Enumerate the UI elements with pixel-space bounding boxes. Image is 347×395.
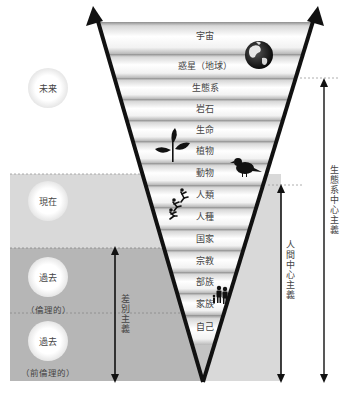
band-life: 生命 bbox=[196, 126, 214, 135]
band-family: 家族 bbox=[196, 300, 214, 309]
discrimination-label: 差別主義 bbox=[120, 294, 129, 334]
band-ecosystem: 生態系 bbox=[192, 84, 219, 93]
era-past-ethical-sub: （倫理的） bbox=[26, 303, 71, 315]
era-present-label: 現在 bbox=[39, 195, 57, 208]
band-nation: 国家 bbox=[196, 235, 214, 244]
band-rock: 岩石 bbox=[196, 105, 214, 114]
band-humankind: 人類 bbox=[196, 191, 214, 200]
band-race: 人種 bbox=[196, 213, 214, 222]
era-past-ethical-label: 過去 bbox=[39, 271, 57, 284]
era-past-preethical-sub: （前倫理的） bbox=[21, 366, 75, 378]
band-religion: 宗教 bbox=[196, 257, 214, 266]
band-plants: 植物 bbox=[196, 147, 214, 156]
ecocentric-range-arrow bbox=[320, 78, 328, 383]
globe-icon bbox=[245, 41, 273, 69]
band-planet: 惑星（地球） bbox=[178, 62, 232, 71]
era-future-label: 未来 bbox=[39, 82, 57, 95]
era-past-ethical-circle: 過去 bbox=[28, 257, 68, 297]
era-future-circle: 未来 bbox=[28, 68, 68, 108]
era-past-preethical-circle: 過去 bbox=[28, 321, 68, 361]
anthropocentrism-label: 人間中心主義 bbox=[285, 240, 294, 300]
band-tribe: 部族 bbox=[196, 278, 214, 287]
band-animals: 動物 bbox=[196, 169, 214, 178]
band-cosmos: 宇宙 bbox=[196, 32, 214, 41]
era-present-circle: 現在 bbox=[28, 181, 68, 221]
ecocentrism-label: 生態系中心主義 bbox=[329, 165, 338, 235]
band-self: 自己 bbox=[196, 323, 214, 332]
era-past-preethical-label: 過去 bbox=[39, 335, 57, 348]
